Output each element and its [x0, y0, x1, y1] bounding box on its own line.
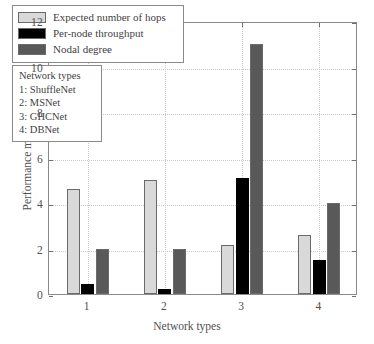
y-tick-mark: [49, 205, 53, 206]
x-gridline: [165, 23, 166, 294]
y-tick-label: 6: [37, 153, 43, 165]
network-type-entry: 2: MSNet: [19, 96, 96, 110]
legend-label: Per-node throughput: [53, 28, 144, 39]
y-tick-mark: [352, 251, 356, 252]
bar: [158, 289, 171, 294]
legend-label: Expected number of hops: [53, 12, 166, 23]
y-tick-mark: [352, 23, 356, 24]
bar: [221, 245, 234, 294]
legend: Expected number of hops Per-node through…: [12, 5, 184, 63]
bar: [144, 180, 157, 294]
bar: [236, 178, 249, 294]
bar: [96, 249, 109, 295]
y-tick-label: 2: [37, 244, 43, 256]
x-tick-label: 3: [238, 300, 244, 312]
network-type-entry: 4: DBNet: [19, 123, 96, 137]
x-gridline: [319, 23, 320, 294]
network-type-entry: 3: GHCNet: [19, 110, 96, 124]
y-tick-mark: [352, 205, 356, 206]
network-type-entry: 1: ShuffleNet: [19, 83, 96, 97]
network-types-box: Network types 1: ShuffleNet 2: MSNet 3: …: [12, 65, 102, 142]
x-tick-mark: [242, 23, 243, 27]
x-tick-label: 1: [84, 300, 90, 312]
y-tick-mark: [49, 296, 53, 297]
y-tick-mark: [352, 69, 356, 70]
legend-item: Per-node throughput: [18, 26, 178, 41]
y-gridline: [49, 160, 356, 161]
bar: [81, 284, 94, 294]
y-tick-label: 4: [37, 198, 43, 210]
chart-figure: Performance metric Network types Expecte…: [0, 0, 374, 344]
legend-swatch-per-node-throughput: [18, 28, 46, 39]
x-axis-title: Network types: [0, 320, 374, 332]
legend-swatch-nodal-degree: [18, 44, 46, 55]
y-tick-mark: [352, 114, 356, 115]
bar: [67, 189, 80, 294]
bar: [173, 249, 186, 295]
y-gridline: [49, 205, 356, 206]
bar: [313, 260, 326, 294]
x-tick-label: 4: [316, 300, 322, 312]
bar: [298, 235, 311, 294]
y-tick-label: 12: [31, 16, 43, 28]
bar: [327, 203, 340, 294]
y-tick-label: 0: [37, 289, 43, 301]
legend-item: Nodal degree: [18, 42, 178, 57]
y-tick-mark: [352, 160, 356, 161]
x-tick-mark: [319, 23, 320, 27]
legend-label: Nodal degree: [53, 44, 112, 55]
x-tick-label: 2: [161, 300, 167, 312]
y-tick-mark: [352, 296, 356, 297]
bar: [250, 44, 263, 294]
y-tick-label: 10: [31, 62, 43, 74]
y-tick-mark: [49, 160, 53, 161]
x-gridline: [88, 23, 89, 294]
y-tick-label: 8: [37, 107, 43, 119]
y-tick-mark: [49, 251, 53, 252]
